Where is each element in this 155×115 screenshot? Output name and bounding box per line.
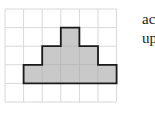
side-text-line-2: up (142, 29, 155, 48)
side-text-line-1: ac (142, 10, 155, 29)
shaded-cell (61, 28, 80, 47)
shaded-cell (61, 65, 80, 84)
shaded-cell (42, 65, 61, 84)
shaded-cell (24, 65, 43, 84)
shaded-cell (79, 46, 98, 65)
shaded-cell (42, 46, 61, 65)
shaded-cell (61, 46, 80, 65)
step-pyramid-grid-figure (0, 0, 155, 115)
shaded-cell (79, 65, 98, 84)
shaded-cell (98, 65, 117, 84)
shaded-cells (24, 28, 117, 84)
